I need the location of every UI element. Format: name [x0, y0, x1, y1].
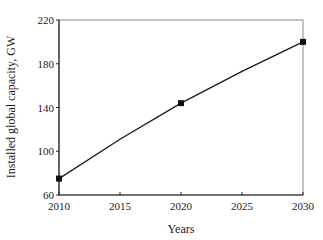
x-tick-label: 2020 — [170, 200, 193, 212]
y-tick-label: 140 — [38, 102, 55, 114]
x-axis-label: Years — [168, 222, 195, 236]
plot-frame — [59, 20, 303, 195]
x-tick-label: 2015 — [109, 200, 132, 212]
data-point-marker — [178, 100, 184, 106]
x-tick-label: 2010 — [48, 200, 71, 212]
data-point-marker — [56, 176, 62, 182]
y-tick-label: 180 — [38, 58, 55, 70]
series-line — [59, 42, 303, 179]
x-tick-label: 2025 — [231, 200, 254, 212]
data-markers — [56, 39, 306, 182]
x-tick-label: 2030 — [292, 200, 315, 212]
y-tick-label: 220 — [38, 14, 55, 26]
chart-canvas: 60100140180220 20102015202020252030 Year… — [0, 0, 323, 240]
y-axis-label: Installed global capacity, GW — [4, 35, 18, 178]
data-point-marker — [300, 39, 306, 45]
y-ticks: 60100140180220 — [38, 14, 60, 201]
y-tick-label: 100 — [38, 145, 55, 157]
